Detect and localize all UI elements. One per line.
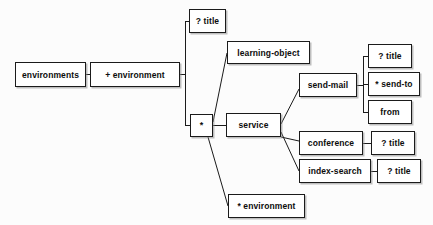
edge-plus-environment-star [180, 75, 190, 126]
node-conference[interactable]: conference [299, 131, 363, 155]
edge-plus-environment-title-1 [180, 21, 189, 75]
node-title-2[interactable]: ? title [368, 44, 412, 68]
node-environments[interactable]: environments [15, 62, 86, 87]
edge-star-learning-object [213, 53, 227, 122]
node-title-3[interactable]: ? title [371, 131, 415, 155]
node-learning-object[interactable]: learning-object [227, 41, 310, 64]
node-from[interactable]: from [368, 100, 412, 124]
node-service[interactable]: service [226, 113, 281, 137]
edge-star-star-environment [208, 137, 228, 206]
node-star[interactable]: * [190, 114, 213, 137]
edge-service-send-mail [281, 89, 299, 124]
node-index-search[interactable]: index-search [299, 159, 371, 183]
edge-service-index-search [281, 132, 299, 171]
node-title-1[interactable]: ? title [189, 9, 226, 33]
edge-send-mail-title-2 [357, 56, 368, 85]
tree-diagram: environments + environment ? title * lea… [0, 0, 433, 225]
node-send-to[interactable]: * send-to [368, 72, 420, 96]
node-send-mail[interactable]: send-mail [299, 73, 357, 97]
node-title-4[interactable]: ? title [377, 159, 421, 183]
node-star-environment[interactable]: * environment [228, 194, 305, 218]
node-plus-environment[interactable]: + environment [90, 62, 180, 87]
edge-send-mail-send-to [357, 84, 368, 85]
edge-service-conference [281, 137, 299, 141]
